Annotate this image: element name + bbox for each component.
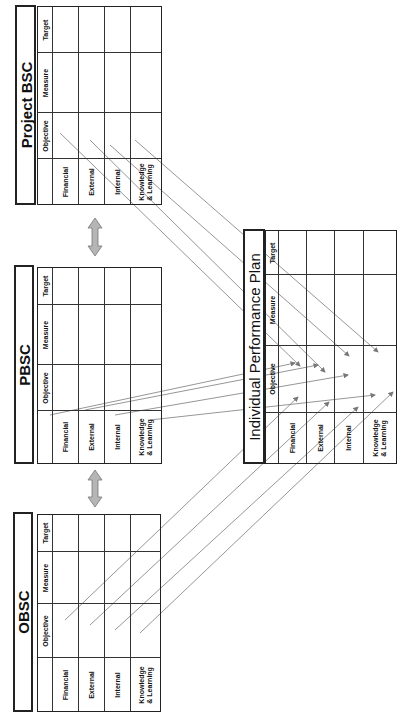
col-objective: Objective — [42, 372, 49, 404]
row-external: External — [88, 168, 96, 196]
ipp-title: Individual Performance Plan — [246, 253, 263, 441]
col-target: Target — [42, 19, 49, 40]
project-bsc-table: Target Measure Objective Financial Exter… — [37, 6, 162, 205]
row-financial: Financial — [62, 166, 70, 196]
col-objective: Objective — [42, 615, 49, 647]
row-knowledge-learning: Knowledge & Learning — [138, 418, 154, 455]
row-financial: Financial — [62, 669, 70, 699]
col-target: Target — [269, 242, 276, 263]
row-external: External — [88, 671, 96, 699]
row-external: External — [317, 424, 325, 452]
project-bsc-title-box: Project BSC — [15, 5, 36, 205]
row-internal: Internal — [345, 425, 353, 450]
row-internal: Internal — [114, 672, 122, 697]
row-knowledge-learning: Knowledge & Learning — [372, 419, 388, 456]
col-measure: Measure — [42, 68, 49, 96]
obsc-title-box: OBSC — [13, 512, 33, 712]
col-target: Target — [42, 523, 49, 544]
col-measure: Measure — [269, 296, 276, 324]
row-financial: Financial — [62, 422, 70, 452]
pbsc-title-box: PBSC — [14, 265, 34, 464]
row-internal: Internal — [114, 424, 122, 449]
row-external: External — [88, 423, 96, 451]
col-objective: Objective — [42, 120, 49, 152]
col-objective: Objective — [269, 363, 276, 395]
row-financial: Financial — [289, 423, 297, 453]
row-knowledge-learning: Knowledge & Learning — [138, 666, 154, 703]
col-measure: Measure — [42, 563, 49, 591]
row-knowledge-learning: Knowledge & Learning — [138, 163, 154, 200]
obsc-title: OBSC — [15, 590, 32, 633]
col-target: Target — [42, 276, 49, 297]
ipp-title-box: Individual Performance Plan — [243, 229, 265, 464]
double-arrow-lower — [88, 470, 102, 507]
project-bsc-title: Project BSC — [17, 62, 34, 149]
double-arrow-upper — [88, 218, 102, 256]
pbsc-table: Target Measure Objective Financial Exter… — [37, 267, 162, 464]
ipp-table: Target Measure Objective Financial Exter… — [265, 230, 397, 464]
col-measure: Measure — [42, 320, 49, 348]
obsc-table: Target Measure Objective Financial Exter… — [37, 514, 161, 712]
pbsc-title: PBSC — [16, 344, 33, 386]
row-internal: Internal — [114, 169, 122, 194]
